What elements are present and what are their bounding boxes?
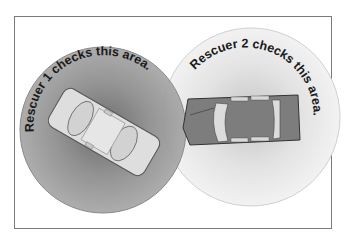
rescue-zones-diagram: Rescuer 1 checks this area. Rescuer 2 ch… (0, 0, 346, 237)
dark-car-icon (183, 95, 300, 145)
